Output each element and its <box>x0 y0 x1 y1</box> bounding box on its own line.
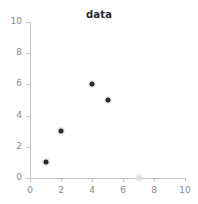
x-tick-label-4: 4 <box>80 185 104 195</box>
y-tick-label-0: 0 <box>0 172 22 182</box>
plot-area <box>30 22 185 178</box>
y-tick-6 <box>26 84 30 85</box>
y-tick-label-8: 8 <box>0 47 22 57</box>
y-tick-4 <box>26 116 30 117</box>
x-tick-8 <box>154 178 155 182</box>
y-tick-label-6: 6 <box>0 78 22 88</box>
x-tick-label-2: 2 <box>49 185 73 195</box>
data-point <box>59 129 64 134</box>
chart-title: data <box>0 9 198 20</box>
x-tick-label-10: 10 <box>173 185 197 195</box>
scatter-chart-figure: data 02468100246810 <box>0 0 198 204</box>
data-point <box>105 98 110 103</box>
x-tick-label-0: 0 <box>18 185 42 195</box>
x-tick-2 <box>61 178 62 182</box>
y-tick-label-2: 2 <box>0 141 22 151</box>
x-tick-4 <box>92 178 93 182</box>
y-tick-label-10: 10 <box>0 16 22 26</box>
data-point <box>136 176 141 181</box>
y-tick-0 <box>26 178 30 179</box>
y-tick-2 <box>26 147 30 148</box>
data-point <box>90 82 95 87</box>
x-tick-label-6: 6 <box>111 185 135 195</box>
x-tick-6 <box>123 178 124 182</box>
x-tick-0 <box>30 178 31 182</box>
y-tick-8 <box>26 53 30 54</box>
x-tick-label-8: 8 <box>142 185 166 195</box>
data-point <box>43 160 48 165</box>
x-axis-line <box>30 178 186 179</box>
y-tick-label-4: 4 <box>0 110 22 120</box>
y-tick-10 <box>26 22 30 23</box>
x-tick-10 <box>185 178 186 182</box>
